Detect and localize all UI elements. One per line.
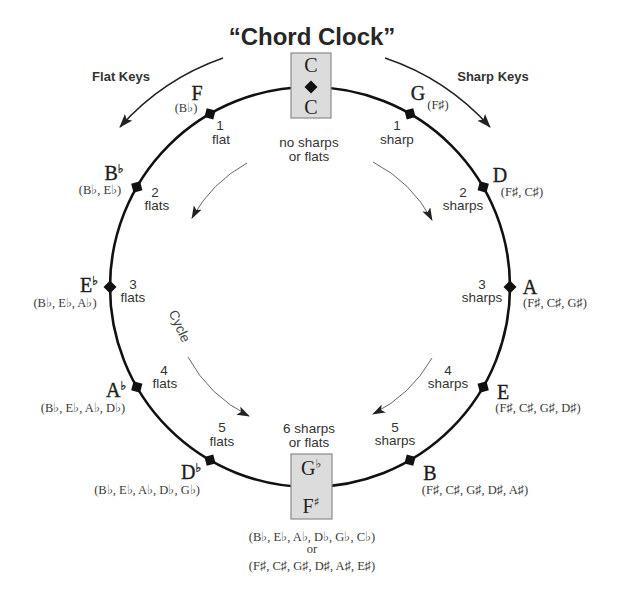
key-name: E♭ [80, 274, 98, 296]
key-name: D♭ [181, 461, 201, 483]
key-a: A (F♯, C♯, G♯) 3 sharps [462, 276, 587, 310]
g-flat-count-line2: or flats [289, 435, 330, 450]
marker-g-icon [404, 108, 415, 119]
marker-e-flat-icon [103, 280, 116, 293]
key-e: E (F♯, C♯, G♯, D♯) 4 sharps [428, 363, 581, 415]
accidental-unit: sharps [443, 198, 484, 213]
key-box-c: C C [291, 53, 331, 118]
marker-f-icon [204, 108, 215, 119]
f-sharp-signature: (F♯, C♯, G♯, D♯, A♯, E♯) [249, 559, 375, 573]
chord-clock-diagram: “Chord Clock” Flat Keys Sharp Keys Cycle… [0, 0, 619, 605]
flat-keys-label: Flat Keys [92, 69, 150, 84]
accidental-unit: sharps [462, 290, 503, 305]
cycle-label: Cycle [166, 308, 193, 345]
key-signature: (F♯, C♯, G♯, D♯, A♯) [422, 483, 528, 497]
accidental-unit: sharps [375, 433, 416, 448]
key-name: D [493, 164, 507, 186]
sharp-keys-label: Sharp Keys [457, 69, 529, 84]
inner-arrow-upper-left-icon [192, 163, 247, 218]
marker-b-flat-icon [131, 181, 142, 192]
accidental-count: 1 [393, 118, 401, 133]
marker-b-icon [404, 455, 415, 466]
key-signature: (B♭, E♭) [79, 183, 122, 197]
marker-d-flat-icon [204, 455, 215, 466]
key-signature: (B♭, E♭, A♭) [33, 296, 96, 310]
top-box-upper-letter: C [304, 54, 317, 76]
c-count-line2: or flats [289, 149, 330, 164]
top-box-lower-letter: C [304, 96, 317, 118]
key-signature: (B♭) [175, 101, 198, 115]
key-f: F (B♭) 1 flat [175, 82, 231, 147]
accidental-unit: sharps [428, 376, 469, 391]
accidental-unit: flats [210, 434, 235, 449]
key-name: B♭ [104, 162, 123, 184]
g-flat-count-line1: 6 sharps [283, 421, 335, 436]
key-signature: (F♯, C♯) [501, 185, 543, 199]
key-signature: (B♭, E♭, A♭, D♭, G♭) [94, 483, 200, 497]
cycle-arrow-lower-left-icon [188, 357, 249, 416]
key-name: G [411, 82, 425, 104]
key-name: A♭ [106, 379, 126, 401]
key-name: A [523, 276, 538, 298]
marker-e-icon [478, 381, 489, 392]
key-signature: (F♯, C♯, G♯, D♯) [495, 401, 580, 415]
accidental-count: 1 [216, 118, 224, 133]
accidental-unit: flats [121, 290, 146, 305]
key-b-flat: B♭ (B♭, E♭) 2 flats [79, 162, 170, 213]
key-name: B [423, 462, 436, 484]
key-signature: (F♯) [427, 98, 449, 112]
marker-d-icon [478, 181, 489, 192]
inner-arrow-lower-right-icon [373, 358, 432, 414]
key-e-flat: E♭ (B♭, E♭, A♭) 3 flats [33, 274, 145, 310]
marker-a-icon [503, 280, 516, 293]
accidental-unit: flat [212, 132, 230, 147]
c-count-line1: no sharps [279, 135, 339, 150]
diagram-title: “Chord Clock” [229, 23, 396, 50]
key-a-flat: A♭ (B♭, E♭, A♭, D♭) 4 flats [41, 363, 178, 415]
accidental-count: 5 [218, 420, 226, 435]
key-b: B (F♯, C♯, G♯, D♯, A♯) 5 sharps [375, 420, 528, 497]
inner-arrow-upper-right-icon [373, 162, 432, 220]
key-name: E [497, 381, 509, 403]
accidental-unit: flats [145, 198, 170, 213]
or-label: or [307, 542, 318, 556]
accidental-unit: flats [153, 376, 178, 391]
key-box-g-flat-f-sharp: G♭ F♯ [291, 454, 332, 519]
key-signature: (F♯, C♯, G♯) [523, 296, 587, 310]
key-signature: (B♭, E♭, A♭, D♭) [41, 401, 125, 415]
accidental-unit: sharp [380, 132, 414, 147]
marker-a-flat-icon [131, 381, 142, 392]
